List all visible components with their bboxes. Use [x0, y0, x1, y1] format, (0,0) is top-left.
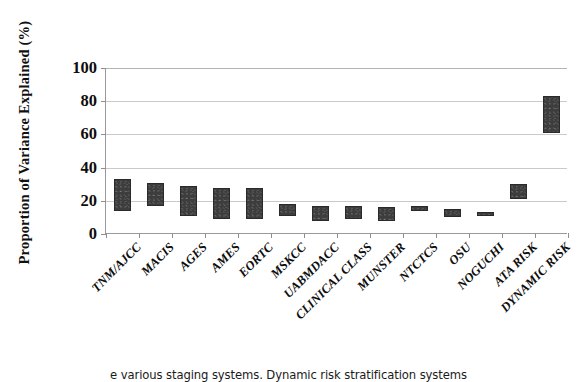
x-axis-label-macis: MACIS	[138, 240, 177, 279]
y-axis-tick	[101, 134, 106, 135]
x-axis-label-osu: OSU	[445, 240, 474, 269]
x-axis-tick	[403, 233, 404, 238]
bar-munster	[378, 207, 395, 220]
bar-dynamic-risk	[543, 96, 560, 133]
x-axis-tick	[337, 233, 338, 238]
x-axis-label-ages: AGES	[176, 240, 210, 274]
bar-eortc	[246, 188, 263, 220]
bar-osu	[444, 209, 461, 217]
bar-ata-risk	[510, 184, 527, 199]
bar-tnm-ajcc	[114, 179, 131, 211]
y-axis-tick	[101, 101, 106, 102]
y-axis-tick	[101, 68, 106, 69]
y-axis-tick-label: 40	[81, 157, 98, 177]
figure-container: Proportion of Variance Explained (%) 020…	[0, 0, 577, 382]
gridline	[106, 68, 567, 69]
bar-clinical-class	[345, 206, 362, 219]
y-axis-title: Proportion of Variance Explained (%)	[16, 35, 33, 265]
x-axis-tick	[469, 233, 470, 238]
gridline	[106, 168, 567, 169]
y-axis-tick-label: 60	[81, 124, 98, 144]
gridline	[106, 134, 567, 135]
x-axis-tick	[205, 233, 206, 238]
y-axis-tick-label: 0	[89, 224, 97, 244]
x-axis-label-tnm-ajcc: TNM/AJCC	[88, 240, 144, 296]
bar-ages	[180, 186, 197, 216]
x-axis-tick	[370, 233, 371, 238]
x-axis-tick	[172, 233, 173, 238]
gridline	[106, 101, 567, 102]
y-axis-tick-label: 80	[81, 91, 98, 111]
figure-caption: e various staging systems. Dynamic risk …	[0, 368, 577, 382]
y-axis-tick-label: 20	[81, 190, 98, 210]
y-axis-tick	[101, 201, 106, 202]
x-axis-tick	[238, 233, 239, 238]
plot-area: 020406080100	[105, 68, 567, 234]
x-axis-tick	[436, 233, 437, 238]
x-axis-tick	[271, 233, 272, 238]
x-axis-tick	[535, 233, 536, 238]
bar-macis	[147, 183, 164, 206]
x-axis-label-eortc: EORTC	[235, 240, 276, 281]
y-axis-tick	[101, 168, 106, 169]
x-axis-tick	[304, 233, 305, 238]
bar-uabmdacc	[312, 206, 329, 221]
x-axis-tick	[139, 233, 140, 238]
x-axis-tick	[568, 233, 569, 238]
x-axis-tick	[106, 233, 107, 238]
bar-ntctcs	[411, 206, 428, 211]
x-axis-tick	[502, 233, 503, 238]
bar-ames	[213, 188, 230, 220]
bar-noguchi	[477, 212, 494, 215]
bar-mskcc	[279, 204, 296, 216]
y-axis-tick-label: 100	[72, 58, 97, 78]
gridline	[106, 201, 567, 202]
